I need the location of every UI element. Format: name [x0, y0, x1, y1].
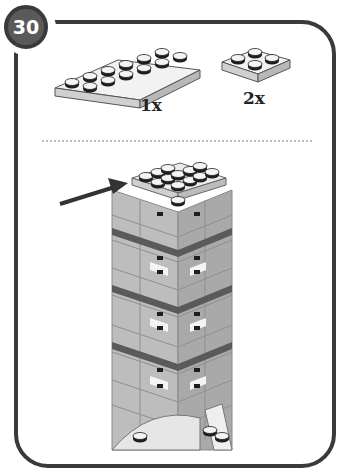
- step-number-badge: 30: [4, 5, 48, 49]
- step-number: 30: [13, 16, 39, 38]
- part-1-quantity: 1x: [140, 95, 162, 115]
- tower-assembly: [112, 163, 232, 451]
- parts-divider: [42, 140, 312, 142]
- plate-2x2-part: [222, 49, 290, 83]
- plate-2x6-part: [55, 49, 200, 109]
- instruction-illustration: [0, 0, 345, 474]
- part-2-quantity: 2x: [243, 88, 265, 108]
